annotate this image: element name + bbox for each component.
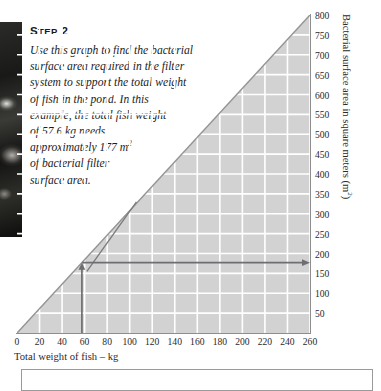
- chart-svg: [17, 15, 310, 333]
- x-axis-line: [16, 333, 311, 334]
- x-tick-160: 160: [190, 336, 204, 347]
- y-tick-450: 450: [315, 149, 329, 160]
- y-tick-600: 600: [315, 89, 329, 100]
- x-axis-title: Total weight of fish – kg: [14, 351, 118, 362]
- x-tick-20: 20: [35, 336, 45, 347]
- x-tick-260: 260: [303, 336, 317, 347]
- y-tick-200: 200: [315, 248, 329, 259]
- x-tick-220: 220: [258, 336, 272, 347]
- x-tick-240: 240: [280, 336, 294, 347]
- chart-plot-area: [17, 15, 310, 333]
- x-tick-140: 140: [168, 336, 182, 347]
- x-tick-80: 80: [102, 336, 112, 347]
- y-tick-500: 500: [315, 129, 329, 140]
- x-tick-40: 40: [57, 336, 67, 347]
- y-tick-800: 800: [315, 10, 329, 21]
- y-axis-title-tail: ): [341, 196, 352, 200]
- x-tick-180: 180: [213, 336, 227, 347]
- empty-note-box[interactable]: [21, 369, 373, 391]
- y-axis-title: Bacterial surface area in square meters …: [341, 14, 352, 234]
- x-tick-100: 100: [122, 336, 136, 347]
- y-axis-title-main: Bacterial surface area in square meters …: [341, 14, 352, 192]
- y-tick-650: 650: [315, 69, 329, 80]
- x-tick-0: 0: [15, 336, 20, 347]
- y-tick-400: 400: [315, 169, 329, 180]
- y-tick-100: 100: [315, 288, 329, 299]
- y-tick-750: 750: [315, 29, 329, 40]
- y-tick-50: 50: [315, 308, 325, 319]
- y-tick-300: 300: [315, 208, 329, 219]
- x-tick-200: 200: [235, 336, 249, 347]
- y-tick-700: 700: [315, 49, 329, 60]
- y-tick-550: 550: [315, 109, 329, 120]
- x-tick-120: 120: [145, 336, 159, 347]
- x-tick-60: 60: [80, 336, 90, 347]
- y-tick-250: 250: [315, 228, 329, 239]
- y-axis-line: [310, 14, 311, 334]
- y-tick-350: 350: [315, 188, 329, 199]
- y-tick-150: 150: [315, 268, 329, 279]
